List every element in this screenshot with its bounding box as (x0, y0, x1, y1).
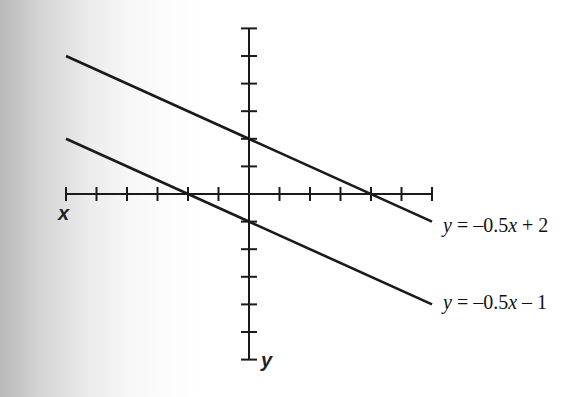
eq1-y: y (443, 214, 452, 236)
eq2-rest: – 1 (517, 291, 547, 313)
eq1-x: x (508, 214, 517, 236)
eq2-x: x (508, 291, 517, 313)
eq1-rest: + 2 (517, 214, 548, 236)
eq2-y: y (443, 291, 452, 313)
chart-figure: x y y = –0.5x + 2 y = –0.5x – 1 (0, 0, 588, 397)
x-axis-label: x (58, 202, 69, 225)
eq2-eq: = –0.5 (452, 291, 508, 313)
equation-label-line-1: y = –0.5x + 2 (443, 214, 548, 237)
y-axis-label: y (261, 349, 272, 372)
eq1-eq: = –0.5 (452, 214, 508, 236)
equation-label-line-2: y = –0.5x – 1 (443, 291, 547, 314)
coordinate-plane (0, 0, 588, 397)
